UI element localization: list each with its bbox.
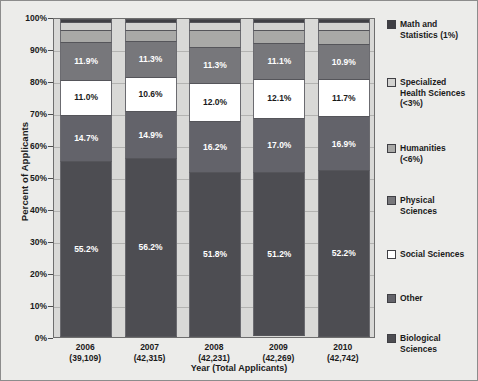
legend-label: Other: [400, 293, 423, 304]
segment-biological-sciences-2007[interactable]: 56.2%: [125, 158, 177, 337]
segment-social-sciences-2006[interactable]: 11.0%: [60, 80, 112, 115]
legend-item-social-sciences[interactable]: Social Sciences: [387, 249, 464, 260]
legend-swatch: [387, 20, 396, 29]
y-axis-tick-label: 40%: [7, 205, 47, 215]
y-axis-tick-label: 90%: [7, 45, 47, 55]
segment-specialized-health-sciences-2010[interactable]: [318, 22, 370, 30]
bar-2010[interactable]: 10.9%11.7%16.9%52.2%: [318, 19, 370, 337]
segment-humanities-2007[interactable]: [125, 30, 177, 41]
legend-swatch: [387, 250, 396, 259]
segment-value-label: 56.2%: [139, 243, 163, 252]
segment-value-label: 14.9%: [139, 131, 163, 140]
segment-value-label: 52.2%: [332, 249, 356, 258]
segment-biological-sciences-2006[interactable]: 55.2%: [60, 161, 112, 337]
legend-label: Humanities (<6%): [400, 143, 446, 164]
legend-label: Math and Statistics (1%): [400, 19, 458, 40]
segment-value-label: 17.0%: [267, 141, 291, 150]
y-axis-tick-label: 80%: [7, 77, 47, 87]
legend-swatch: [387, 196, 396, 205]
x-axis-year: 2010: [303, 342, 383, 353]
y-axis-tick-label: 50%: [7, 173, 47, 183]
segment-other-2008[interactable]: 16.2%: [189, 121, 241, 173]
segment-value-label: 12.0%: [203, 98, 227, 107]
segment-specialized-health-sciences-2006[interactable]: [60, 22, 112, 30]
y-axis-tick-label: 30%: [7, 237, 47, 247]
legend-swatch: [387, 144, 396, 153]
segment-physical-sciences-2009[interactable]: 11.1%: [253, 43, 305, 79]
segment-social-sciences-2009[interactable]: 12.1%: [253, 79, 305, 118]
legend-label: Specialized Health Sciences (<3%): [400, 77, 465, 109]
y-axis-tick-label: 100%: [7, 13, 47, 23]
segment-other-2009[interactable]: 17.0%: [253, 118, 305, 172]
y-axis-tick-label: 0%: [7, 333, 47, 343]
segment-humanities-2006[interactable]: [60, 30, 112, 42]
segment-social-sciences-2010[interactable]: 11.7%: [318, 79, 370, 116]
segment-other-2007[interactable]: 14.9%: [125, 111, 177, 158]
segment-value-label: 10.6%: [139, 90, 163, 99]
y-axis-tick-label: 60%: [7, 141, 47, 151]
bar-2009[interactable]: 11.1%12.1%17.0%51.2%: [253, 19, 305, 337]
x-axis-label-2010: 2010(42,742): [303, 342, 383, 364]
segment-value-label: 11.1%: [268, 57, 292, 66]
segment-value-label: 11.7%: [332, 94, 356, 103]
segment-specialized-health-sciences-2008[interactable]: [189, 22, 241, 30]
legend-item-biological[interactable]: Biological Sciences: [387, 333, 441, 354]
segment-value-label: 11.9%: [74, 57, 98, 66]
y-axis-tick-label: 70%: [7, 109, 47, 119]
segment-value-label: 55.2%: [74, 245, 98, 254]
segment-physical-sciences-2010[interactable]: 10.9%: [318, 44, 370, 79]
legend-swatch: [387, 78, 396, 87]
segment-value-label: 51.8%: [203, 250, 227, 259]
segment-specialized-health-sciences-2009[interactable]: [253, 22, 305, 30]
segment-humanities-2008[interactable]: [189, 30, 241, 47]
segment-specialized-health-sciences-2007[interactable]: [125, 22, 177, 30]
segment-value-label: 11.0%: [74, 93, 98, 102]
plot-area: 11.9%11.0%14.7%55.2%11.3%10.6%14.9%56.2%…: [53, 18, 375, 338]
legend-label: Physical Sciences: [400, 195, 437, 216]
y-axis-tick-label: 20%: [7, 269, 47, 279]
segment-physical-sciences-2006[interactable]: 11.9%: [60, 42, 112, 80]
bar-2007[interactable]: 11.3%10.6%14.9%56.2%: [125, 19, 177, 337]
segment-biological-sciences-2010[interactable]: 52.2%: [318, 170, 370, 337]
segment-other-2006[interactable]: 14.7%: [60, 115, 112, 162]
legend-swatch: [387, 294, 396, 303]
segment-value-label: 10.9%: [332, 58, 356, 67]
segment-value-label: 12.1%: [267, 94, 291, 103]
segment-value-label: 16.9%: [332, 140, 356, 149]
y-axis-tick-label: 10%: [7, 301, 47, 311]
bar-2006[interactable]: 11.9%11.0%14.7%55.2%: [60, 19, 112, 337]
segment-physical-sciences-2008[interactable]: 11.3%: [189, 47, 241, 83]
segment-value-label: 51.2%: [267, 250, 291, 259]
segment-social-sciences-2008[interactable]: 12.0%: [189, 83, 241, 121]
segment-value-label: 14.7%: [74, 134, 98, 143]
segment-value-label: 11.3%: [139, 55, 163, 64]
legend-swatch: [387, 334, 396, 343]
chart-figure: Percent of Applicants 100%90%80%70%60%50…: [0, 0, 478, 381]
segment-humanities-2009[interactable]: [253, 30, 305, 43]
legend-label: Biological Sciences: [400, 333, 441, 354]
legend-item-other[interactable]: Other: [387, 293, 423, 304]
segment-social-sciences-2007[interactable]: 10.6%: [125, 77, 177, 111]
legend-item-physical[interactable]: Physical Sciences: [387, 195, 437, 216]
legend-item-math-and[interactable]: Math and Statistics (1%): [387, 19, 458, 40]
segment-value-label: 11.3%: [203, 61, 227, 70]
legend-item-specialized[interactable]: Specialized Health Sciences (<3%): [387, 77, 465, 109]
segment-physical-sciences-2007[interactable]: 11.3%: [125, 41, 177, 77]
legend-label: Social Sciences: [400, 249, 464, 260]
bar-2008[interactable]: 11.3%12.0%16.2%51.8%: [189, 19, 241, 337]
legend-item-humanities[interactable]: Humanities (<6%): [387, 143, 446, 164]
segment-humanities-2010[interactable]: [318, 30, 370, 44]
segment-other-2010[interactable]: 16.9%: [318, 116, 370, 170]
segment-biological-sciences-2009[interactable]: 51.2%: [253, 172, 305, 336]
x-axis-title: Year (Total Applicants): [1, 363, 477, 373]
y-axis-tick-mark: [48, 338, 53, 339]
segment-biological-sciences-2008[interactable]: 51.8%: [189, 172, 241, 337]
segment-value-label: 16.2%: [203, 143, 227, 152]
